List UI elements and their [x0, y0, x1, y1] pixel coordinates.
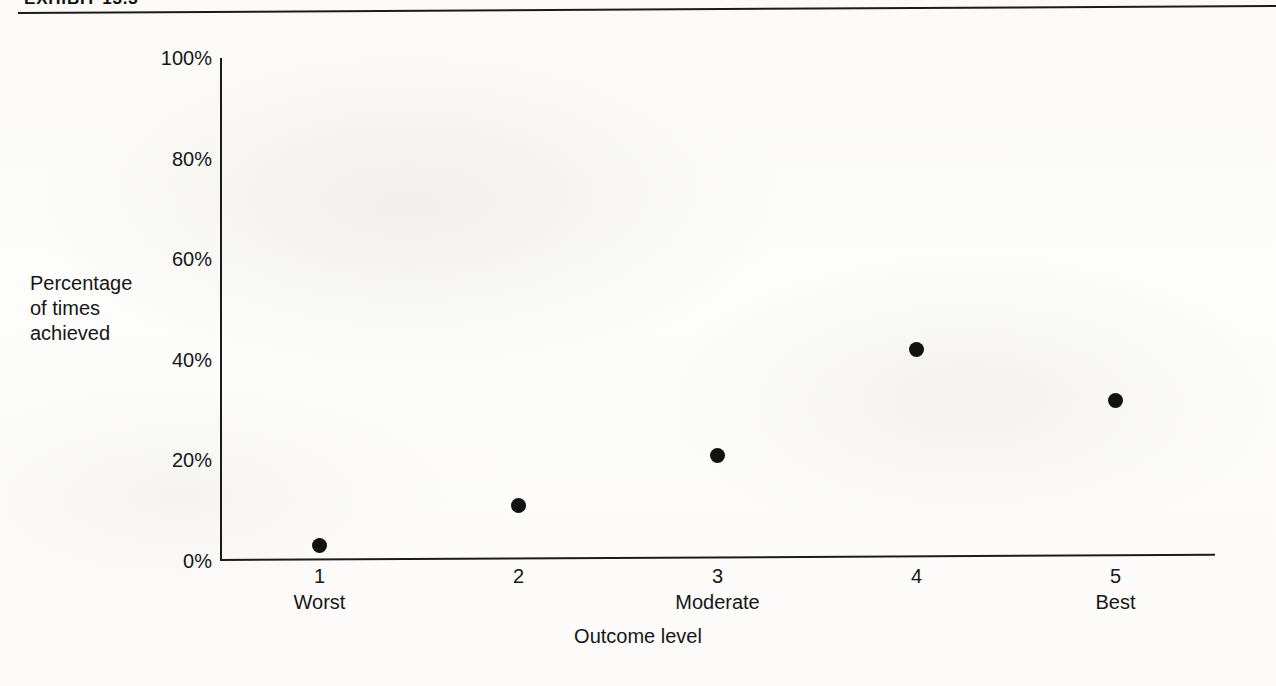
data-point-4	[909, 342, 924, 357]
plot-area	[220, 58, 1215, 561]
y-axis-tick-40pct: 40%	[172, 350, 212, 370]
x-axis-tick-labels: 1Worst23Moderate45Best	[0, 563, 1276, 633]
x-axis-tick-number: 5	[1095, 563, 1135, 589]
x-axis-tick-1: 1Worst	[294, 563, 346, 615]
y-axis-tick-100pct: 100%	[161, 48, 212, 68]
x-axis-tick-5: 5Best	[1095, 563, 1135, 615]
data-point-2	[511, 498, 526, 513]
x-axis-tick-3: 3Moderate	[675, 563, 760, 615]
y-axis-tick-20pct: 20%	[172, 450, 212, 470]
x-axis-tick-number: 3	[675, 563, 760, 589]
x-axis-tick-anchor-worst: Worst	[294, 589, 346, 615]
data-point-1	[312, 538, 327, 553]
y-axis-tick-60pct: 60%	[172, 249, 212, 269]
data-point-3	[710, 448, 725, 463]
x-axis-tick-number: 2	[513, 563, 524, 589]
y-axis-title: Percentage of times achieved	[30, 271, 132, 346]
y-axis-title-line-3: achieved	[30, 321, 132, 346]
data-point-5	[1108, 393, 1123, 408]
x-axis-tick-number: 4	[911, 563, 922, 589]
exhibit-page: EXHIBIT 13.3 0%20%40%60%80%100% Percenta…	[0, 0, 1276, 686]
y-axis-title-line-2: of times	[30, 296, 132, 321]
x-axis-tick-4: 4	[911, 563, 922, 589]
x-axis-tick-anchor-moderate: Moderate	[675, 589, 760, 615]
y-axis-tick-80pct: 80%	[172, 149, 212, 169]
x-axis-tick-2: 2	[513, 563, 524, 589]
y-axis-title-line-1: Percentage	[30, 271, 132, 296]
x-axis-title: Outcome level	[0, 625, 1276, 648]
x-axis-line	[220, 554, 1215, 561]
x-axis-tick-anchor-best: Best	[1095, 589, 1135, 615]
y-axis-line	[220, 58, 222, 561]
x-axis-tick-number: 1	[294, 563, 346, 589]
